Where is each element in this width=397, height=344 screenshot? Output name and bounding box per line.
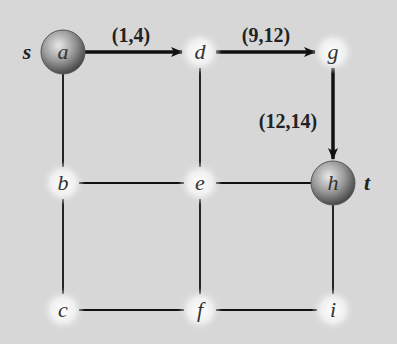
- node-label: e: [195, 170, 205, 195]
- node-label: h: [328, 170, 339, 195]
- graph-diagram: adgbehcfi st(1,4)(9,12)(12,14): [0, 0, 397, 344]
- node-d: d: [178, 30, 222, 74]
- source-label: s: [22, 39, 32, 64]
- nodes-layer: adgbehcfi: [41, 30, 355, 332]
- node-f: f: [178, 288, 222, 332]
- node-h: h: [311, 161, 355, 205]
- node-label: c: [58, 297, 68, 322]
- node-i: i: [311, 288, 355, 332]
- edge-flow-label: (12,14): [259, 110, 317, 133]
- node-label: b: [58, 170, 69, 195]
- edge-flow-label: (1,4): [112, 24, 150, 47]
- node-label: g: [328, 39, 339, 64]
- node-label: i: [330, 297, 336, 322]
- node-label: d: [195, 39, 207, 64]
- node-a: a: [41, 30, 85, 74]
- node-b: b: [41, 161, 85, 205]
- graph-canvas: adgbehcfi st(1,4)(9,12)(12,14): [0, 0, 397, 344]
- sink-label: t: [364, 170, 371, 195]
- edge-flow-label: (9,12): [242, 24, 290, 47]
- node-e: e: [178, 161, 222, 205]
- node-c: c: [41, 288, 85, 332]
- node-g: g: [311, 30, 355, 74]
- node-label: a: [58, 39, 69, 64]
